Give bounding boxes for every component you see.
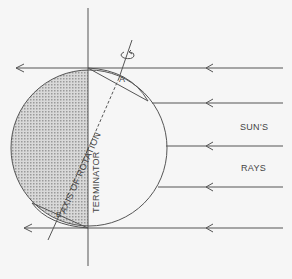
suns-label: SUN'S xyxy=(240,122,268,132)
rays-label: RAYS xyxy=(241,163,266,173)
diagram-graphic xyxy=(0,0,292,279)
night-side xyxy=(0,60,88,240)
diagram-canvas: A B SUN'S RAYS TERMINATOR AXIS OF ROTATI… xyxy=(0,0,292,279)
terminator-label: TERMINATOR xyxy=(91,151,101,213)
point-a-label: A xyxy=(119,74,125,84)
